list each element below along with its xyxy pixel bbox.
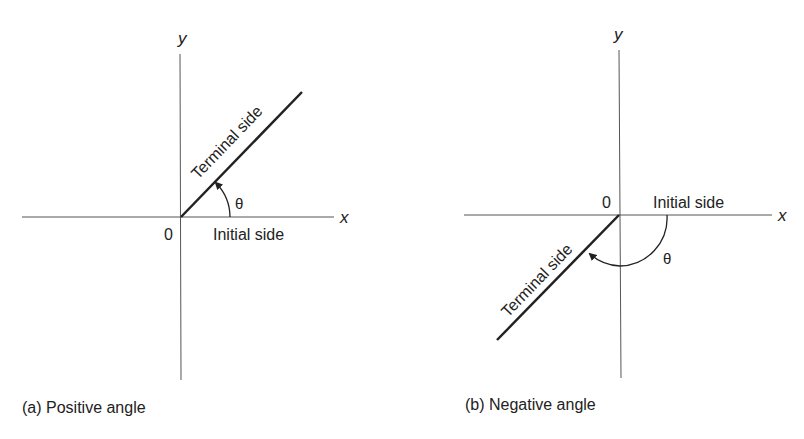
caption-b: (b) Negative angle: [465, 396, 596, 413]
terminal-side-line: [497, 215, 619, 340]
origin-label: 0: [602, 194, 611, 211]
angle-arc: [590, 215, 667, 266]
y-axis-label: y: [613, 25, 624, 44]
angle-theta-label: θ: [235, 195, 243, 212]
figure: y x 0 Initial side θ Terminal side (a) P…: [0, 0, 804, 439]
y-axis: [180, 54, 181, 380]
y-axis: [619, 50, 621, 378]
origin-label: 0: [164, 226, 173, 243]
terminal-side-label: Terminal side: [498, 240, 576, 320]
panel-a: y x 0 Initial side θ Terminal side (a) P…: [22, 29, 349, 416]
y-axis-label: y: [177, 29, 188, 48]
angle-diagram: y x 0 Initial side θ Terminal side (a) P…: [0, 0, 804, 439]
panel-b: y x 0 Initial side θ Terminal side (b) N…: [464, 25, 787, 413]
initial-side-label: Initial side: [213, 226, 284, 243]
caption-a: (a) Positive angle: [22, 399, 146, 416]
x-axis-label: x: [339, 208, 349, 227]
angle-arc: [216, 183, 230, 217]
angle-theta-label: θ: [663, 250, 671, 267]
x-axis-label: x: [777, 206, 787, 225]
initial-side-label: Initial side: [653, 194, 724, 211]
